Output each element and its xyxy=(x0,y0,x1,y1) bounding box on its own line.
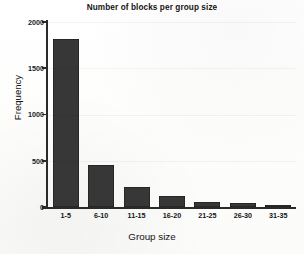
x-tick-label: 21-25 xyxy=(190,211,225,220)
bar[interactable] xyxy=(88,165,114,207)
gridline xyxy=(48,68,296,69)
plot-area xyxy=(48,22,296,207)
bar[interactable] xyxy=(159,196,185,207)
y-tick-label: 2000 xyxy=(4,18,44,27)
gridline xyxy=(48,22,296,23)
x-axis-line xyxy=(42,207,296,209)
y-axis-title: Frequency xyxy=(12,43,23,153)
x-tick-label: 26-30 xyxy=(225,211,260,220)
y-tick-label: 1000 xyxy=(4,110,44,119)
y-tick-label: 0 xyxy=(4,203,44,212)
chart-figure: Number of blocks per group size Frequenc… xyxy=(0,0,304,254)
x-tick-label: 1-5 xyxy=(48,211,83,220)
x-axis-title: Group size xyxy=(0,231,304,242)
chart-title: Number of blocks per group size xyxy=(0,3,304,12)
bar[interactable] xyxy=(53,39,79,207)
gridline xyxy=(48,161,296,162)
x-tick-label: 6-10 xyxy=(83,211,118,220)
gridline xyxy=(48,115,296,116)
y-tick-label: 500 xyxy=(4,157,44,166)
x-tick-label: 16-20 xyxy=(154,211,189,220)
x-tick-label: 11-15 xyxy=(119,211,154,220)
x-tick-label: 31-35 xyxy=(261,211,296,220)
bar[interactable] xyxy=(124,187,150,207)
y-tick-label: 1500 xyxy=(4,64,44,73)
